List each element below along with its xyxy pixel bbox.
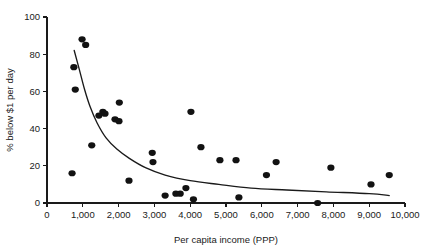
data-point	[314, 200, 321, 206]
x-tick-label: 10,000	[390, 209, 419, 220]
data-point	[263, 172, 270, 178]
x-tick-label: 0	[44, 209, 49, 220]
y-axis-title: % below $1 per day	[4, 68, 15, 152]
data-point	[115, 118, 122, 124]
data-point	[68, 170, 75, 176]
data-point	[187, 109, 194, 115]
data-point	[88, 142, 95, 148]
data-point	[327, 165, 334, 171]
data-point	[149, 150, 156, 156]
data-point	[235, 194, 242, 200]
y-tick-label: 80	[29, 49, 40, 60]
data-point	[82, 42, 89, 48]
data-point	[125, 178, 132, 184]
y-tick-label: 100	[24, 11, 40, 22]
x-axis: 01,0002,0003,0004,0005,0006,0007,0008,00…	[44, 203, 419, 220]
x-tick-label: 4,000	[178, 209, 202, 220]
data-point	[190, 196, 197, 202]
data-point	[273, 159, 280, 165]
data-point	[162, 192, 169, 198]
data-point	[216, 157, 223, 163]
y-tick-label: 0	[35, 197, 40, 208]
x-tick-label: 9,000	[357, 209, 381, 220]
x-tick-label: 5,000	[214, 209, 238, 220]
chart-figure: 020406080100 01,0002,0003,0004,0005,0006…	[0, 0, 426, 252]
data-point	[149, 159, 156, 165]
data-point	[116, 99, 123, 105]
data-point	[70, 64, 77, 70]
y-tick-label: 60	[29, 86, 40, 97]
x-tick-label: 6,000	[250, 209, 274, 220]
x-tick-label: 1,000	[71, 209, 95, 220]
data-point	[367, 181, 374, 187]
data-point	[78, 36, 85, 42]
data-point	[177, 191, 184, 197]
data-point	[72, 86, 79, 92]
x-tick-label: 3,000	[143, 209, 167, 220]
y-tick-label: 40	[29, 123, 40, 134]
y-axis: 020406080100	[24, 11, 47, 208]
y-tick-label: 20	[29, 160, 40, 171]
x-axis-title: Per capita income (PPP)	[174, 234, 278, 245]
data-point	[232, 157, 239, 163]
data-point	[101, 111, 108, 117]
data-point	[182, 185, 189, 191]
data-points-layer	[68, 36, 392, 206]
x-tick-label: 2,000	[107, 209, 131, 220]
data-point	[197, 144, 204, 150]
x-tick-label: 7,000	[286, 209, 310, 220]
x-tick-label: 8,000	[322, 209, 346, 220]
scatter-plot-svg: 020406080100 01,0002,0003,0004,0005,0006…	[0, 0, 426, 252]
data-point	[386, 172, 393, 178]
